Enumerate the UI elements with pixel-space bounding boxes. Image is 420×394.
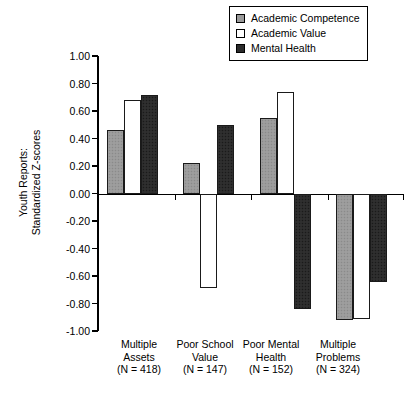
white-square-swatch <box>236 29 245 38</box>
y-axis-tick-label: 0.40 <box>46 134 90 145</box>
bar-academic-value <box>353 194 370 319</box>
y-axis-tick-label: -1.00 <box>46 326 90 337</box>
x-label-line: Multiple <box>295 338 381 351</box>
y-axis-tick-label: -0.20 <box>46 216 90 227</box>
bar-academic-value <box>277 92 294 194</box>
y-axis-tick-label: -0.40 <box>46 244 90 255</box>
bar-academic-value <box>124 100 141 194</box>
legend-label-academic-competence: Academic Competence <box>251 13 360 24</box>
y-axis-tick-labels: 1.000.800.600.400.200.00-0.20-0.40-0.60-… <box>46 50 90 340</box>
y-axis-title-line-1: Youth Reports: <box>17 103 30 263</box>
y-axis-tick <box>92 303 98 304</box>
y-axis-tick-label: -0.60 <box>46 271 90 282</box>
bar-mental-health <box>217 125 234 194</box>
x-axis-tick <box>251 194 252 200</box>
y-axis-tick <box>92 193 98 194</box>
bar-academic-competence <box>183 163 200 193</box>
gray-square-swatch <box>236 14 245 23</box>
x-axis-tick <box>175 194 176 200</box>
y-axis-tick-label: 0.00 <box>46 189 90 200</box>
x-label-line: Problems <box>295 351 381 364</box>
y-axis-tick-label: 0.20 <box>46 161 90 172</box>
chart-legend: Academic Competence Academic Value Menta… <box>229 6 368 61</box>
legend-label-academic-value: Academic Value <box>251 28 326 39</box>
y-axis-tick <box>92 248 98 249</box>
black-square-swatch <box>236 44 245 53</box>
bar-academic-competence <box>336 194 353 321</box>
x-axis-tick <box>328 194 329 200</box>
legend-label-mental-health: Mental Health <box>251 43 316 54</box>
y-axis-tick-label: -0.80 <box>46 299 90 310</box>
y-axis-tick <box>92 110 98 111</box>
bar-mental-health <box>294 194 311 310</box>
bar-mental-health <box>141 95 158 194</box>
y-axis-tick-label: 0.60 <box>46 106 90 117</box>
bar-academic-competence <box>260 118 277 194</box>
y-axis-tick <box>92 138 98 139</box>
y-axis-tick-label: 0.80 <box>46 79 90 90</box>
x-label-n: (N = 324) <box>295 363 381 376</box>
legend-item-academic-value: Academic Value <box>236 26 360 41</box>
bar-academic-competence <box>107 130 124 193</box>
y-axis-tick <box>92 220 98 221</box>
y-axis-tick <box>92 83 98 84</box>
y-axis-tick <box>92 165 98 166</box>
legend-item-mental-health: Mental Health <box>236 41 360 56</box>
y-axis-tick <box>92 275 98 276</box>
legend-item-academic-competence: Academic Competence <box>236 11 360 26</box>
plot-area <box>98 56 404 331</box>
x-category-label-multiple-problems: Multiple Problems (N = 324) <box>295 338 381 376</box>
y-axis-title-line-2: Standardized Z-scores <box>29 103 42 263</box>
bar-mental-health <box>370 194 387 282</box>
x-axis-tick <box>403 194 404 200</box>
bar-academic-value <box>200 194 217 289</box>
y-axis-tick <box>92 55 98 56</box>
y-axis-title: Youth Reports: Standardized Z-scores <box>17 103 42 263</box>
bar-chart-figure: Academic Competence Academic Value Menta… <box>0 0 420 394</box>
y-axis-tick-label: 1.00 <box>46 51 90 62</box>
y-axis-tick <box>92 330 98 331</box>
